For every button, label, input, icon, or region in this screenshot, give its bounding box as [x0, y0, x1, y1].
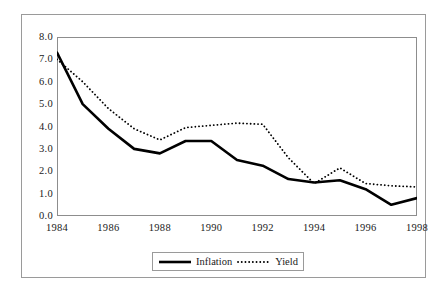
legend-label: Inflation [196, 256, 232, 267]
x-tick-label: 1998 [397, 222, 437, 233]
series-line-yield [57, 59, 417, 187]
x-tick-label: 1988 [140, 222, 180, 233]
legend-swatch-solid-line-icon [158, 258, 192, 266]
x-tick-label: 1986 [88, 222, 128, 233]
x-tick-label: 1996 [346, 222, 386, 233]
x-tick-label: 1990 [191, 222, 231, 233]
chart-legend: InflationYield [152, 252, 304, 271]
x-tick-label: 1994 [294, 222, 334, 233]
legend-entry-inflation: Inflation [158, 256, 232, 267]
plot-lines [57, 37, 417, 216]
chart-figure: 0.01.02.03.04.05.06.07.08.0 198419861988… [0, 0, 447, 293]
legend-label: Yield [275, 256, 298, 267]
x-tick-label: 1984 [37, 222, 77, 233]
x-tick-label: 1992 [243, 222, 283, 233]
legend-entry-yield: Yield [237, 256, 298, 267]
legend-swatch-dotted-line-icon [237, 258, 271, 266]
